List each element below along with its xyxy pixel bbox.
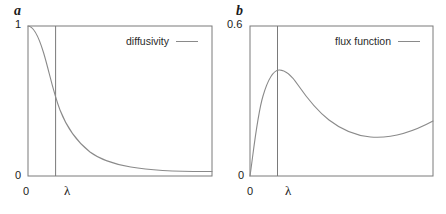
panel-a-legend: diffusivity: [126, 36, 198, 47]
figure-container: a 1 0 0 λ diffusivity b 0.6 0 0 λ: [0, 0, 446, 214]
panel-b-legend-label: flux function: [335, 36, 391, 47]
panel-b-legend-line-swatch: [398, 41, 420, 42]
panel-b-plot: [223, 0, 446, 214]
panel-a-legend-line-swatch: [176, 41, 198, 42]
panel-a: a 1 0 0 λ diffusivity: [0, 0, 223, 214]
panel-a-legend-label: diffusivity: [126, 36, 169, 47]
panel-b-legend: flux function: [335, 36, 420, 47]
panel-b: b 0.6 0 0 λ flux function: [223, 0, 446, 214]
panel-a-plot: [0, 0, 223, 214]
